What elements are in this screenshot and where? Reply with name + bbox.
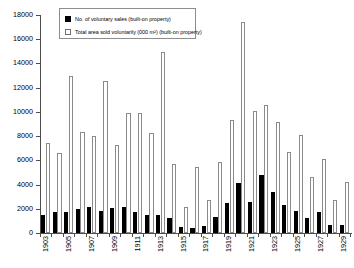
bar-sales (236, 183, 240, 233)
y-axis-label: 16000 (0, 35, 33, 42)
bar-area (115, 145, 119, 233)
x-axis-label: 1929 (340, 236, 347, 252)
x-axis-label: 1923 (271, 236, 278, 252)
y-axis-tick (36, 112, 40, 113)
x-axis-label: 1927 (317, 236, 324, 252)
bar-sales (156, 215, 160, 233)
x-axis-label: 1905 (65, 236, 72, 252)
x-axis-label: 1913 (157, 236, 164, 252)
x-axis-label: 1919 (225, 236, 232, 252)
bar-sales (317, 212, 321, 233)
bar-area (287, 152, 291, 233)
bar-area (92, 136, 96, 233)
x-axis-tick (350, 233, 351, 237)
x-axis-tick (281, 233, 282, 237)
bar-sales (294, 211, 298, 233)
bar-sales (110, 208, 114, 233)
bar-sales (87, 207, 91, 233)
bar-area (195, 167, 199, 233)
bar-area (264, 105, 268, 233)
bar-sales (64, 212, 68, 233)
y-axis-label: 8000 (0, 132, 33, 139)
bar-sales (202, 226, 206, 233)
x-axis-tick (327, 233, 328, 237)
x-axis-tick (258, 233, 259, 237)
bar-sales (53, 212, 57, 233)
y-axis-tick (36, 63, 40, 64)
bar-area (253, 111, 257, 233)
x-axis-tick (166, 233, 167, 237)
y-axis-label: 4000 (0, 181, 33, 188)
bar-area (172, 164, 176, 233)
x-axis-tick (304, 233, 305, 237)
bar-sales (99, 211, 103, 233)
bar-area (57, 153, 61, 233)
bar-sales (328, 225, 332, 233)
bar-area (126, 113, 130, 234)
bar-area (333, 200, 337, 233)
bar-area (161, 52, 165, 233)
bar-sales (190, 228, 194, 233)
y-axis-tick (36, 39, 40, 40)
bar-sales (76, 209, 80, 233)
bar-area (310, 177, 314, 233)
x-axis-label: 1907 (88, 236, 95, 252)
bar-sales (282, 205, 286, 233)
bar-area (207, 200, 211, 233)
bar-area (299, 135, 303, 233)
y-axis-tick (36, 88, 40, 89)
bar-sales (133, 212, 137, 233)
bar-sales (259, 175, 263, 233)
y-axis-label: 14000 (0, 59, 33, 66)
bar-sales (145, 215, 149, 233)
x-axis-label: 1921 (248, 236, 255, 252)
bar-sales (248, 202, 252, 233)
bar-area (241, 22, 245, 233)
bar-area (103, 81, 107, 233)
bar-sales (225, 203, 229, 233)
bar-sales (167, 218, 171, 233)
y-axis-label: 18000 (0, 11, 33, 18)
y-axis-label: 10000 (0, 108, 33, 115)
bar-area (322, 159, 326, 233)
y-axis-tick (36, 209, 40, 210)
x-axis-tick (189, 233, 190, 237)
bar-area (230, 120, 234, 233)
bar-sales (271, 192, 275, 233)
x-axis-label: 1903 (42, 236, 49, 252)
x-axis-label: 1911 (134, 236, 141, 251)
x-axis-tick (235, 233, 236, 237)
bar-area (276, 122, 280, 233)
x-axis-label: 1917 (202, 236, 209, 252)
y-axis-label: 12000 (0, 84, 33, 91)
x-axis-tick (143, 233, 144, 237)
y-axis-tick (36, 15, 40, 16)
bar-sales (179, 227, 183, 233)
bar-area (80, 132, 84, 233)
bar-sales (122, 207, 126, 233)
bar-area (138, 113, 142, 233)
bar-sales (41, 215, 45, 233)
y-axis-label: 6000 (0, 156, 33, 163)
y-axis-tick (36, 136, 40, 137)
bar-area (69, 76, 73, 233)
x-axis-tick (120, 233, 121, 237)
x-axis-tick (212, 233, 213, 237)
bar-sales (340, 225, 344, 233)
x-axis-label: 1925 (294, 236, 301, 252)
bar-area (218, 162, 222, 233)
bar-area (184, 207, 188, 233)
bar-sales (305, 218, 309, 233)
x-axis-label: 1909 (111, 236, 118, 252)
plot-area: 0200040006000800010000120001400016000180… (40, 15, 350, 233)
x-axis-tick (97, 233, 98, 237)
bar-sales (213, 217, 217, 233)
y-axis-label: 0 (0, 229, 33, 236)
chart-container: No. of voluntary sales (built-on propert… (0, 0, 354, 268)
y-axis-label: 2000 (0, 205, 33, 212)
x-axis-label: 1915 (180, 236, 187, 252)
x-axis-tick (51, 233, 52, 237)
x-axis-tick (74, 233, 75, 237)
y-axis-tick (36, 185, 40, 186)
bar-area (149, 133, 153, 233)
